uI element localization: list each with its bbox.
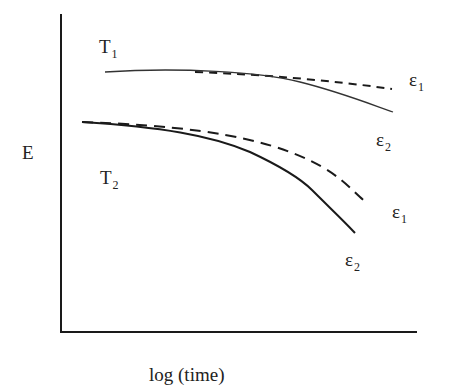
y-axis-label-text: E bbox=[22, 142, 34, 163]
label-t2-epsilon1-main: ε bbox=[392, 201, 400, 222]
label-t2-epsilon1: ε1 bbox=[392, 202, 407, 225]
label-t1-epsilon1-sub: 1 bbox=[418, 80, 424, 94]
label-t1-epsilon2-sub: 2 bbox=[385, 140, 391, 154]
curve-t1-epsilon2-solid bbox=[105, 70, 393, 112]
label-t1-epsilon1: ε1 bbox=[409, 70, 424, 93]
label-t1-epsilon2-main: ε bbox=[376, 129, 384, 150]
x-axis-label: log (time) bbox=[149, 365, 224, 384]
label-t2: T2 bbox=[100, 168, 119, 191]
label-t1-epsilon2: ε2 bbox=[376, 130, 391, 153]
label-t2-sub: 2 bbox=[113, 178, 119, 192]
label-t1: T1 bbox=[99, 37, 118, 60]
curve-t2-epsilon1-dashed bbox=[82, 122, 367, 203]
label-t2-main: T bbox=[100, 167, 112, 188]
curve-t2-epsilon2-solid bbox=[82, 122, 355, 233]
label-t2-epsilon2-sub: 2 bbox=[354, 260, 360, 274]
label-t1-sub: 1 bbox=[112, 47, 118, 61]
label-t1-main: T bbox=[99, 36, 111, 57]
x-axis-label-text: log (time) bbox=[149, 364, 224, 385]
chart-canvas bbox=[0, 0, 449, 385]
label-t1-epsilon1-main: ε bbox=[409, 69, 417, 90]
label-t2-epsilon2-main: ε bbox=[345, 249, 353, 270]
y-axis-label: E bbox=[22, 143, 34, 162]
label-t2-epsilon1-sub: 1 bbox=[401, 212, 407, 226]
label-t2-epsilon2: ε2 bbox=[345, 250, 360, 273]
